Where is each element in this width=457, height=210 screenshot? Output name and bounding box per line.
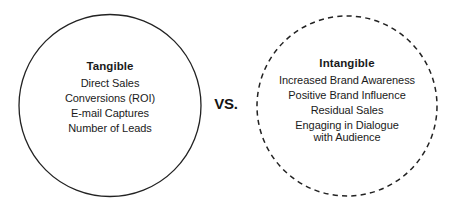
intangible-item-3: Residual Sales [257,105,437,116]
tangible-item-4: Number of Leads [20,123,200,134]
versus-label: VS. [206,95,246,112]
tangible-item-1: Direct Sales [20,78,200,89]
diagram-canvas: Tangible Direct Sales Conversions (ROI) … [0,0,457,210]
intangible-title: Intangible [257,58,437,70]
intangible-item-2: Positive Brand Influence [257,90,437,101]
intangible-item-4-line-2: with Audience [257,132,437,143]
tangible-item-3: E-mail Captures [20,108,200,119]
tangible-title: Tangible [20,61,200,73]
intangible-item-1: Increased Brand Awareness [257,75,437,86]
intangible-group-text: Intangible Increased Brand Awareness Pos… [257,58,437,143]
intangible-item-4-line-1: Engaging in Dialogue [257,120,437,131]
tangible-group-text: Tangible Direct Sales Conversions (ROI) … [20,61,200,134]
tangible-item-2: Conversions (ROI) [20,93,200,104]
